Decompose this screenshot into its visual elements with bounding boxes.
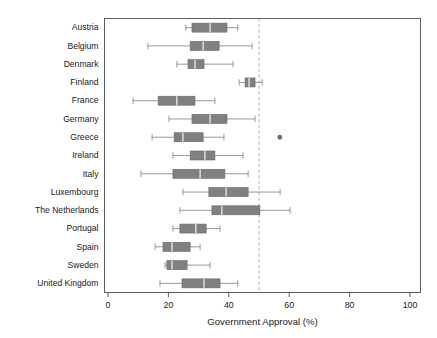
x-axis-title: Government Approval (%) (207, 316, 317, 327)
category-label-ireland: Ireland (72, 150, 98, 160)
category-label-belgium: Belgium (67, 41, 98, 51)
plot-area-frame (105, 19, 421, 293)
x-tick-label-60: 60 (284, 300, 294, 310)
x-tick-label-40: 40 (224, 300, 234, 310)
category-label-united-kingdom: United Kingdom (37, 278, 98, 288)
category-axis-labels: AustriaBelgiumDenmarkFinlandFranceGerman… (35, 22, 99, 288)
category-label-spain: Spain (77, 242, 99, 252)
category-label-portugal: Portugal (66, 223, 98, 233)
category-label-austria: Austria (72, 22, 99, 32)
category-label-italy: Italy (83, 169, 99, 179)
box-plot-chart: AustriaBelgiumDenmarkFinlandFranceGerman… (0, 0, 437, 338)
x-axis-title-text: Government Approval (%) (207, 316, 317, 327)
chart-canvas: AustriaBelgiumDenmarkFinlandFranceGerman… (0, 0, 437, 338)
category-label-luxembourg: Luxembourg (51, 187, 99, 197)
category-label-germany: Germany (63, 114, 99, 124)
category-label-finland: Finland (70, 77, 98, 87)
value-axis: 020406080100 (106, 293, 418, 310)
x-tick-label-20: 20 (164, 300, 174, 310)
category-label-france: France (72, 95, 99, 105)
category-label-sweden: Sweden (67, 260, 98, 270)
category-label-the-netherlands: The Netherlands (35, 205, 99, 215)
category-label-greece: Greece (70, 132, 98, 142)
x-tick-label-100: 100 (403, 300, 418, 310)
x-tick-label-0: 0 (106, 300, 111, 310)
category-label-denmark: Denmark (64, 59, 100, 69)
x-tick-label-80: 80 (345, 300, 355, 310)
